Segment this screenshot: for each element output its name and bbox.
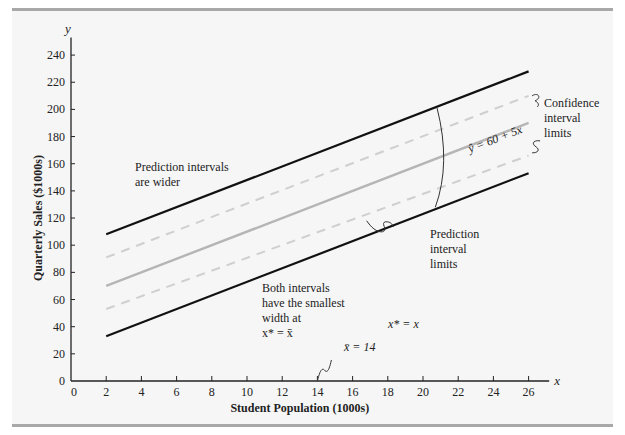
annotation-smallest-width: width at (262, 311, 302, 325)
y-tick-label: 240 (47, 48, 65, 62)
x-tick-label: 0 (71, 385, 77, 399)
y-axis-symbol: y (63, 21, 71, 36)
x-tick-label: 24 (487, 385, 499, 399)
series-line (106, 71, 528, 234)
x-axis-symbol: x (553, 373, 560, 388)
regression-interval-chart: yx02040608010012014016018020022024002468… (0, 0, 625, 435)
annotation-confidence-limits: Confidence (544, 96, 599, 110)
x-tick-label: 20 (417, 385, 429, 399)
annotation-prediction-limits: limits (430, 257, 458, 271)
annotation-confidence-limits: interval (544, 111, 581, 125)
y-tick-label: 0 (59, 374, 65, 388)
annotation-prediction-wider: Prediction intervals (135, 160, 229, 174)
y-tick-label: 180 (47, 130, 65, 144)
x-tick-label: 10 (241, 385, 253, 399)
annotation-x-star: x* = x (387, 317, 419, 331)
y-tick-label: 120 (47, 211, 65, 225)
annotation-prediction-wider: are wider (135, 175, 180, 189)
y-tick-label: 200 (47, 102, 65, 116)
x-tick-label: 14 (311, 385, 323, 399)
series-line (106, 123, 528, 286)
y-tick-label: 160 (47, 157, 65, 171)
confidence-squiggle-lower (532, 141, 540, 153)
annotation-x-bar: x̄ = 14 (343, 340, 375, 354)
x-tick-label: 18 (382, 385, 394, 399)
equation-label: ŷ = 60 + 5x (465, 122, 525, 156)
x-tick-label: 16 (347, 385, 359, 399)
x-tick-label: 22 (452, 385, 464, 399)
x-tick-label: 12 (276, 385, 288, 399)
annotation-prediction-limits: Prediction (430, 227, 479, 241)
x-tick-label: 26 (523, 385, 535, 399)
confidence-squiggle-upper (532, 94, 539, 106)
y-tick-label: 20 (53, 347, 65, 361)
x-axis-label: Student Population (1000s) (230, 401, 369, 415)
x-tick-label: 6 (174, 385, 180, 399)
y-tick-label: 140 (47, 184, 65, 198)
y-tick-label: 40 (53, 320, 65, 334)
x-tick-label: 8 (209, 385, 215, 399)
y-axis-label: Quarterly Sales ($1000s) (31, 155, 45, 281)
annotation-confidence-limits: limits (544, 126, 572, 140)
x-tick-label: 4 (138, 385, 144, 399)
y-tick-label: 60 (53, 293, 65, 307)
y-tick-label: 220 (47, 75, 65, 89)
annotation-smallest-width: x* = x̄ (262, 326, 293, 340)
annotation-smallest-width: have the smallest (262, 296, 345, 310)
x-tick-label: 2 (103, 385, 109, 399)
annotation-prediction-limits: interval (430, 242, 467, 256)
xbar-squiggle (317, 360, 331, 381)
y-tick-label: 80 (53, 265, 65, 279)
annotation-smallest-width: Both intervals (262, 281, 330, 295)
y-tick-label: 100 (47, 238, 65, 252)
